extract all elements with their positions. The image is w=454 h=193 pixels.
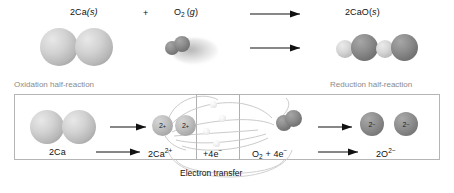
oxide-ion-sphere: 2− <box>394 112 418 136</box>
electron-transfer-caption: Electron transfer <box>180 168 242 178</box>
reduction-reactant-label: O2 + 4e− <box>252 147 288 160</box>
oxide-ion-charge-label: 2− <box>360 112 384 136</box>
oxygen-atom-sphere <box>285 110 302 127</box>
calcium-ion-sphere: 2+ <box>152 115 173 136</box>
calcium-ion-charge-label: 2+ <box>175 115 196 136</box>
bottom-arrows <box>0 0 454 193</box>
electron-sphere <box>219 115 226 122</box>
oxide-ion-charge-label: 2− <box>394 112 418 136</box>
electron-sphere <box>203 128 210 135</box>
oxide-ion-sphere: 2− <box>360 112 384 136</box>
reduction-product-label: 2O2− <box>376 147 396 159</box>
electron-sphere <box>210 101 217 108</box>
electron-sphere <box>213 140 220 147</box>
oxidation-product-label: 2Ca2+ <box>148 147 172 159</box>
calcium-ion-sphere: 2+ <box>175 115 196 136</box>
oxidation-reactant-label: 2Ca <box>49 147 66 157</box>
electron-term-label: +4e− <box>203 147 222 159</box>
figure-root: 2Ca(s) + O2 (g) 2CaO(s) Oxidation half-r… <box>0 0 454 193</box>
calcium-ion-charge-label: 2+ <box>152 115 173 136</box>
